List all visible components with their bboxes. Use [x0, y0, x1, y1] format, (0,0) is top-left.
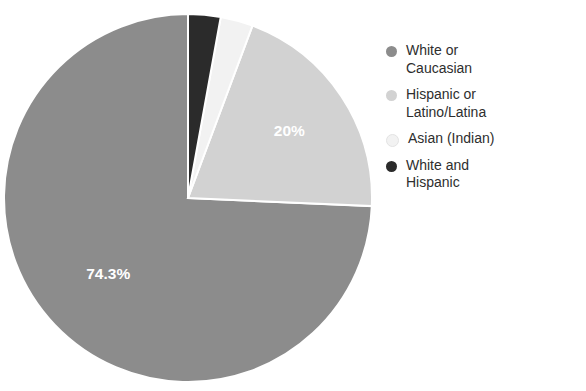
- legend-item-label: Hispanic or Latino/Latina: [406, 86, 524, 121]
- pie-chart-figure: 74.3% 20% White or Caucasian Hispanic or…: [0, 0, 586, 391]
- legend-item-asian-indian[interactable]: Asian (Indian): [386, 130, 586, 148]
- legend-item-label: White and Hispanic: [406, 157, 524, 192]
- legend-item-white-or-caucasian[interactable]: White or Caucasian: [386, 42, 586, 77]
- legend-item-label: White or Caucasian: [406, 42, 524, 77]
- chart-legend: White or Caucasian Hispanic or Latino/La…: [386, 42, 586, 201]
- pie-plot-area: 74.3% 20%: [0, 0, 380, 391]
- legend-item-white-and-hispanic[interactable]: White and Hispanic: [386, 157, 586, 192]
- legend-swatch-icon: [386, 46, 397, 57]
- pie-slice-label-major: 74.3%: [86, 265, 130, 282]
- legend-item-label: Asian (Indian): [408, 130, 494, 148]
- legend-swatch-icon: [386, 134, 399, 147]
- legend-item-hispanic-or-latino-latina[interactable]: Hispanic or Latino/Latina: [386, 86, 586, 121]
- legend-swatch-icon: [386, 161, 397, 172]
- pie-slice-label-second: 20%: [274, 122, 305, 139]
- legend-swatch-icon: [386, 90, 397, 101]
- pie-svg: 74.3% 20%: [0, 0, 380, 391]
- pie-slices: [4, 14, 372, 382]
